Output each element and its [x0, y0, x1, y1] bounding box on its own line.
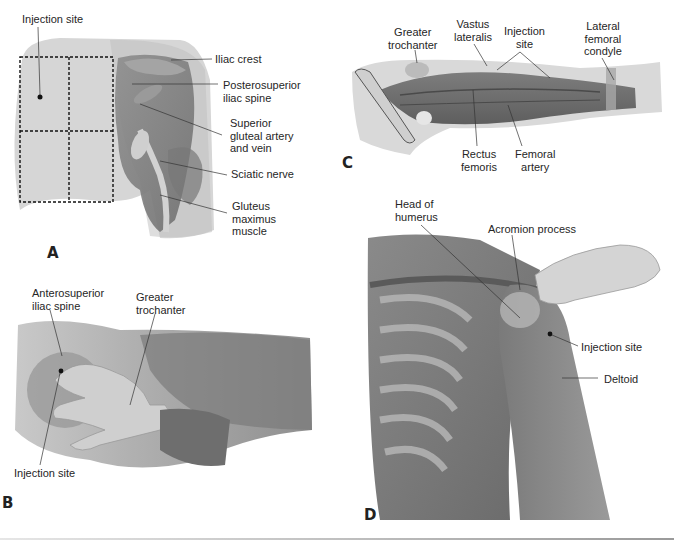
- label-acromion-process: Acromion process: [488, 223, 576, 236]
- injection-site-dot: [38, 95, 43, 100]
- label-gluteus-maximus-muscle: Gluteus maximus muscle: [232, 200, 276, 238]
- label-injection-site-b: Injection site: [14, 467, 75, 480]
- label-deltoid: Deltoid: [604, 373, 638, 386]
- label-injection-site-c: Injection site: [504, 25, 545, 50]
- humerus-head: [500, 292, 540, 328]
- panel-c-vastus-lateralis: Greater trochanter Vastus lateralis Inje…: [340, 0, 674, 190]
- label-anterosuperior-iliac-spine: Anterosuperior iliac spine: [32, 287, 104, 312]
- label-lateral-femoral-condyle: Lateral femoral condyle: [584, 20, 622, 58]
- label-iliac-crest: Iliac crest: [215, 53, 261, 66]
- label-head-of-humerus: Head of humerus: [395, 198, 438, 223]
- label-sciatic-nerve: Sciatic nerve: [231, 168, 294, 181]
- label-rectus-femoris: Rectus femoris: [461, 148, 497, 173]
- panel-letter-b: B: [2, 494, 13, 512]
- label-vastus-lateralis: Vastus lateralis: [454, 18, 492, 43]
- injection-site-dot: [59, 369, 64, 374]
- label-greater-trochanter-c: Greater trochanter: [388, 26, 438, 51]
- panel-letter-c: C: [342, 154, 353, 172]
- label-posterosuperior-iliac-spine: Posterosuperior iliac spine: [223, 79, 301, 104]
- page-bottom-rule: [0, 538, 674, 540]
- label-superior-gluteal-artery-vein: Superior gluteal artery and vein: [230, 117, 294, 155]
- hand-on-shoulder: [535, 245, 660, 304]
- panel-a-dorsogluteal: Injection site Iliac crest Posterosuperi…: [0, 0, 340, 270]
- panel-d-deltoid: Head of humerus Acromion process Injecti…: [340, 190, 674, 541]
- label-injection-site-d: Injection site: [581, 341, 642, 354]
- panel-d-illustration: [340, 190, 674, 541]
- panel-letter-d: D: [364, 506, 376, 524]
- label-injection-site-a: Injection site: [22, 13, 83, 26]
- label-femoral-artery: Femoral artery: [515, 148, 555, 173]
- label-greater-trochanter-b: Greater trochanter: [136, 291, 186, 316]
- panel-b-ventrogluteal: Anterosuperior iliac spine Greater troch…: [0, 260, 340, 541]
- injection-site-dot: [548, 332, 553, 337]
